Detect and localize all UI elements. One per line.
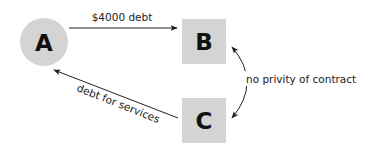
edge-a-to-b-label: $4000 debt — [92, 11, 153, 23]
node-b-label: B — [195, 29, 213, 55]
node-a: A — [20, 18, 68, 66]
edge-a-to-b: $4000 debt — [69, 11, 177, 28]
edge-b-c: no privity of contract — [232, 47, 356, 118]
arrow-c-to-a-icon — [54, 70, 178, 118]
edge-c-to-a-label: debt for services — [75, 82, 161, 125]
edge-b-c-label: no privity of contract — [246, 73, 356, 85]
node-c: C — [182, 98, 226, 143]
edge-c-to-a: debt for services — [54, 70, 178, 125]
node-c-label: C — [196, 108, 213, 134]
node-a-label: A — [35, 30, 53, 56]
diagram-canvas: A B C $4000 debt debt for services no pr… — [0, 0, 369, 148]
node-b: B — [182, 19, 226, 64]
